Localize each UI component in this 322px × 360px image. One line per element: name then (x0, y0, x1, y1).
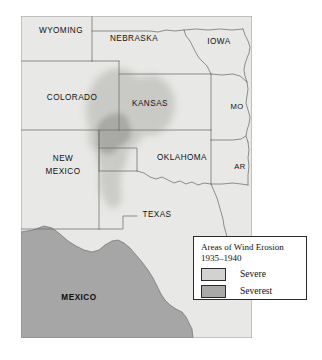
wind-erosion-map-figure: WYOMING NEBRASKA IOWA COLORADO KANSAS MO… (0, 0, 322, 360)
legend-item-severe: Severe (201, 266, 300, 282)
map-legend: Areas of Wind Erosion 1935–1940 Severe S… (193, 236, 307, 300)
legend-swatch-severe (201, 268, 226, 281)
state-label-nebraska: NEBRASKA (110, 34, 158, 43)
country-label-mexico: MEXICO (61, 293, 96, 302)
state-label-colorado: COLORADO (47, 93, 97, 102)
legend-label-severe: Severe (240, 269, 266, 279)
state-label-arkansas: AR (234, 162, 246, 171)
legend-swatch-severest (201, 285, 226, 298)
legend-title-line1: Areas of Wind Erosion (201, 242, 300, 253)
state-label-oklahoma: OKLAHOMA (157, 153, 207, 162)
state-label-new-mexico-line1: NEW (53, 154, 73, 163)
state-label-kansas: KANSAS (132, 99, 168, 108)
map-canvas: WYOMING NEBRASKA IOWA COLORADO KANSAS MO… (0, 0, 322, 360)
state-label-missouri: MO (230, 102, 243, 111)
state-label-iowa: IOWA (207, 37, 230, 46)
legend-item-severest: Severest (201, 283, 300, 299)
legend-title: Areas of Wind Erosion 1935–1940 (201, 242, 300, 263)
legend-items: Severe Severest (201, 266, 300, 299)
state-label-texas: TEXAS (142, 210, 171, 219)
legend-label-severest: Severest (240, 286, 272, 296)
state-label-wyoming: WYOMING (39, 26, 83, 35)
state-label-new-mexico-line2: MEXICO (46, 167, 81, 176)
legend-title-line2: 1935–1940 (201, 253, 300, 264)
